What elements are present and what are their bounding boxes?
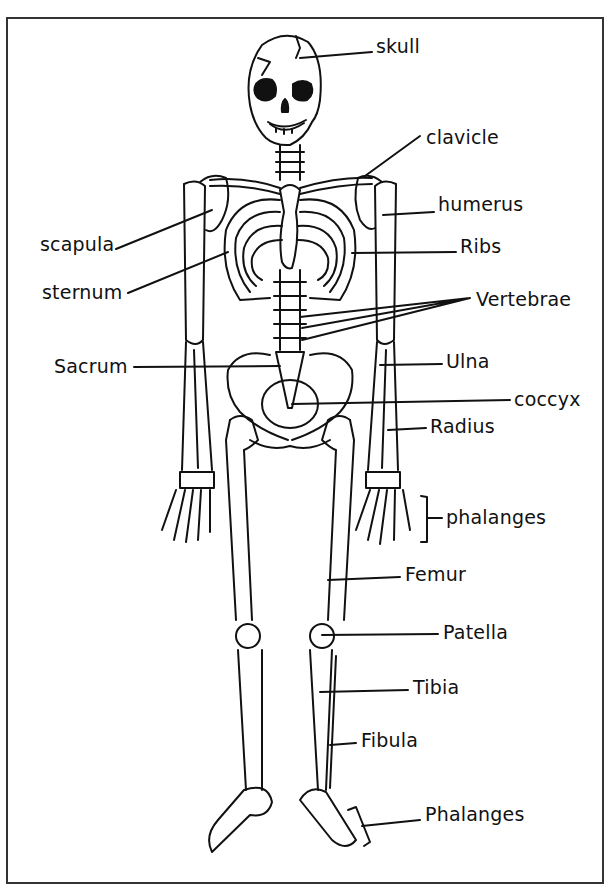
label-clavicle: clavicle — [426, 128, 499, 147]
cervical-spine-drawing — [276, 145, 304, 180]
label-ulna: Ulna — [446, 352, 490, 371]
sternum-drawing — [280, 185, 300, 268]
label-skull: skull — [376, 37, 420, 56]
label-humerus: humerus — [438, 195, 523, 214]
label-scapula: scapula — [40, 235, 114, 254]
label-fibula: Fibula — [361, 731, 418, 750]
left-arm-drawing — [162, 181, 214, 542]
skull-drawing — [249, 36, 321, 145]
skeleton-illustration — [0, 0, 611, 893]
label-sacrum: Sacrum — [54, 357, 128, 376]
right-arm-drawing — [356, 181, 410, 544]
label-phalanges-foot: Phalanges — [425, 805, 525, 824]
right-leg-drawing — [300, 416, 356, 846]
label-femur: Femur — [405, 565, 466, 584]
label-tibia: Tibia — [413, 678, 459, 697]
label-patella: Patella — [443, 623, 508, 642]
label-sternum: sternum — [42, 283, 123, 302]
ribcage-drawing — [225, 199, 356, 300]
label-vertebrae: Vertebrae — [476, 290, 571, 309]
leader-lines — [116, 52, 510, 846]
label-ribs: Ribs — [460, 237, 501, 256]
label-coccyx: coccyx — [514, 390, 581, 409]
label-radius: Radius — [430, 417, 495, 436]
label-phalanges-hand: phalanges — [446, 508, 546, 527]
lumbar-spine-drawing — [274, 270, 306, 350]
left-leg-drawing — [209, 416, 272, 852]
